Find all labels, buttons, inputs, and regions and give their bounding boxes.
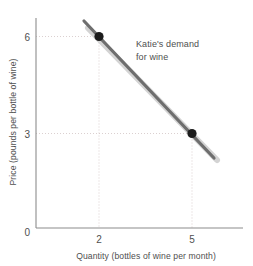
ytick-label-3: 3 xyxy=(24,129,30,140)
xtick-label-2: 2 xyxy=(96,234,102,245)
xtick-label-5: 5 xyxy=(189,234,195,245)
chart-canvas: 6 3 0 2 5 Quantity (bottles of wine per … xyxy=(0,0,253,266)
demand-curve-chart: 6 3 0 2 5 Quantity (bottles of wine per … xyxy=(0,0,253,266)
ytick-label-6: 6 xyxy=(24,32,30,43)
demand-curve-label-line1: Katie's demand xyxy=(136,39,199,49)
origin-label: 0 xyxy=(24,227,30,238)
data-point-2-6 xyxy=(94,32,103,41)
x-axis-title: Quantity (bottles of wine per month) xyxy=(76,251,216,261)
demand-curve-label-line2: for wine xyxy=(136,52,168,62)
data-point-5-3 xyxy=(187,129,196,138)
y-axis-title: Price (pounds per bottle of wine) xyxy=(8,58,18,185)
